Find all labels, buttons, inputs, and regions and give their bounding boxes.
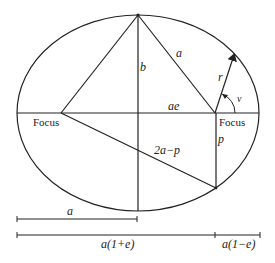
two-a-minus-p-label: 2a−p bbox=[154, 143, 180, 157]
top-vertex-point bbox=[136, 13, 139, 16]
p-label: p bbox=[217, 132, 224, 146]
radius-vector-arrow bbox=[215, 55, 234, 113]
true-anomaly-label: ν bbox=[237, 93, 242, 104]
focus-right-label: Focus bbox=[219, 116, 245, 128]
ae-label: ae bbox=[168, 99, 180, 113]
radius-label: r bbox=[218, 70, 223, 84]
semi-major-label: a bbox=[176, 46, 182, 60]
left-focus-to-top-line bbox=[61, 15, 138, 113]
latus-point bbox=[215, 187, 218, 190]
scale-a-label: a bbox=[67, 204, 73, 218]
scale-a-one-plus-e-label: a(1+e) bbox=[101, 237, 134, 251]
scale-a-one-minus-e-label: a(1−e) bbox=[222, 237, 255, 251]
focus-left-label: Focus bbox=[33, 116, 59, 128]
ellipse-orbit-diagram: Focus Focus b a r ν ae 2a−p p a a(1+e) a… bbox=[0, 0, 275, 263]
semi-minor-label: b bbox=[140, 60, 146, 74]
